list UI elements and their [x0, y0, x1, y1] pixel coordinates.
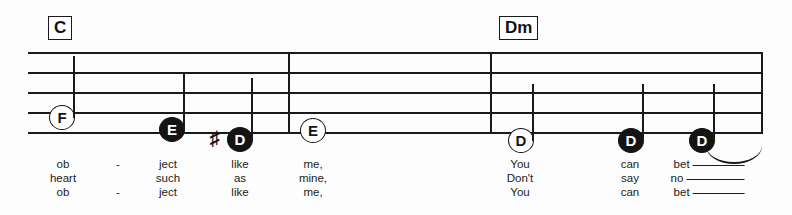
staff-line-3 [28, 92, 763, 94]
notehead-d-2: D [227, 127, 253, 152]
lyric-row-verse-2: heartsuchasmine,Don'tsayno [0, 172, 792, 186]
lyric-word: as [234, 172, 246, 185]
lyric-word: ob [57, 158, 70, 171]
lyric-word: bet [674, 158, 745, 171]
lyric-word: You [510, 158, 529, 171]
lyric-word: - [116, 158, 120, 171]
lyric-word: say [621, 172, 639, 185]
staff-line-4 [28, 112, 763, 114]
lyric-word: bet [674, 186, 745, 199]
music-staff [28, 52, 763, 133]
notehead-d-5: D [618, 128, 644, 153]
lyric-word: like [231, 186, 248, 199]
lyric-word: like [231, 158, 248, 171]
note-stem-1 [183, 72, 185, 130]
lyric-word: can [621, 186, 640, 199]
lyric-word: ject [159, 158, 177, 171]
lyric-row-verse-1: ob-jectlikeme,Youcanbet [0, 158, 792, 172]
lyric-word: such [156, 172, 180, 185]
lyric-word: me, [303, 186, 322, 199]
staff-line-1 [28, 52, 763, 54]
lyric-row-verse-3: ob-jectlikeme,Youcanbet [0, 186, 792, 200]
lyric-word: You [510, 186, 529, 199]
sharp-icon: ♯ [210, 128, 220, 148]
lyric-word: mine, [299, 172, 327, 185]
barline-2 [490, 52, 492, 133]
chord-symbol-dm: Dm [499, 16, 538, 40]
end-barline [761, 52, 763, 133]
notehead-e-1: E [159, 117, 185, 142]
notehead-f-0: F [49, 105, 75, 130]
staff-line-2 [28, 72, 763, 74]
lyric-word: ob [57, 186, 70, 199]
sheet-music-page: CDm FED♯EDDD ob-jectlikeme,Youcanbethear… [0, 0, 792, 215]
chord-symbol-c: C [48, 16, 72, 40]
barline-1 [288, 52, 290, 133]
notehead-d-4: D [508, 128, 534, 153]
staff-line-5 [28, 132, 763, 134]
note-stem-5 [642, 84, 644, 141]
lyric-word: can [621, 158, 640, 171]
lyric-word: me, [303, 158, 322, 171]
lyric-word: - [116, 186, 120, 199]
lyric-word: no [670, 172, 744, 185]
lyric-word: Don't [507, 172, 534, 185]
note-stem-0 [73, 56, 75, 118]
lyrics-block: ob-jectlikeme,Youcanbetheartsuchasmine,D… [0, 158, 792, 213]
note-stem-4 [532, 84, 534, 141]
lyric-word: ject [159, 186, 177, 199]
lyric-word: heart [50, 172, 76, 185]
note-stem-2 [251, 78, 253, 140]
note-stem-6 [713, 84, 715, 141]
notehead-e-3: E [300, 118, 326, 143]
